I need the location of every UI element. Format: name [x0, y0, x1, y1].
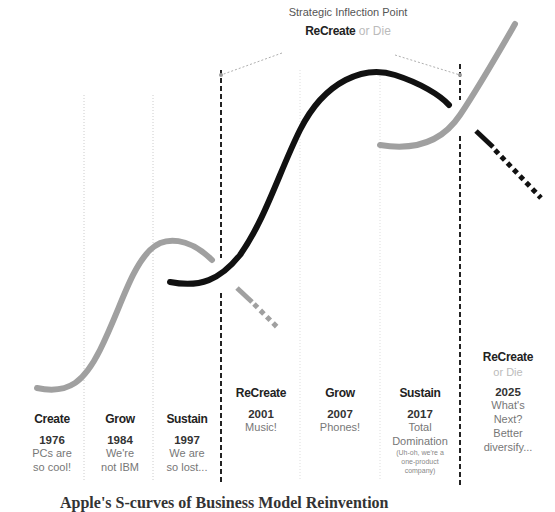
note-line: one-product [383, 457, 457, 466]
s-curve-2-ipod-iphone [170, 72, 449, 284]
column-recreate-1: ReCreate 2001 Music! [224, 386, 298, 434]
column-sustain-1: Sustain 1997 We are so lost... [155, 412, 219, 474]
desc-line: Domination [383, 434, 457, 448]
year-label: 1984 [88, 434, 152, 446]
note-line: company) [383, 466, 457, 475]
column-grow-2: Grow 2007 Phones! [302, 386, 378, 434]
phase-sub-label: or Die [468, 366, 548, 378]
phase-label: Sustain [383, 386, 457, 400]
year-label: 1976 [20, 434, 84, 446]
pointer-line-right [395, 55, 460, 75]
year-label: 2017 [383, 408, 457, 420]
desc-line: Phones! [302, 420, 378, 434]
decline-gray-solid [237, 288, 252, 302]
desc-line: so lost... [155, 460, 219, 474]
column-grow-1: Grow 1984 We're not IBM [88, 412, 152, 474]
phase-label: Create [20, 412, 84, 426]
desc-line: We are [155, 446, 219, 460]
phase-label: Sustain [155, 412, 219, 426]
desc-line: PCs are [20, 446, 84, 460]
desc-line: Total [383, 420, 457, 434]
column-recreate-2: ReCreate or Die 2025 What's Next? Better… [468, 350, 548, 454]
year-label: 2025 [468, 386, 548, 398]
pointer-dot-left [219, 73, 223, 77]
desc-line: Next? [468, 412, 548, 426]
s-curve-3-next [380, 24, 515, 147]
pointer-dot-right [458, 73, 462, 77]
desc-line: Better [468, 426, 548, 440]
desc-line: We're [88, 446, 152, 460]
phase-label: Grow [88, 412, 152, 426]
column-sustain-2: Sustain 2017 Total Domination (Uh-oh, we… [383, 386, 457, 475]
phase-label: Grow [302, 386, 378, 400]
subtitle-bold: ReCreate [305, 24, 355, 38]
header-title: Strategic Inflection Point [248, 6, 448, 18]
decline-black-dashed [495, 150, 541, 198]
header-subtitle: ReCreate or Die [248, 24, 448, 38]
year-label: 1997 [155, 434, 219, 446]
desc-line: so cool! [20, 460, 84, 474]
desc-line: What's [468, 398, 548, 412]
subtitle-light: or Die [359, 24, 391, 38]
decline-black-solid [476, 131, 493, 147]
caption: Apple's S-curves of Business Model Reinv… [60, 494, 500, 512]
year-label: 2001 [224, 408, 298, 420]
decline-gray-dashed [254, 304, 277, 327]
desc-line: Music! [224, 420, 298, 434]
desc-line: diversify... [468, 440, 548, 454]
pointer-line-left [221, 53, 282, 75]
year-label: 2007 [302, 408, 378, 420]
note-line: (Uh-oh, we're a [383, 448, 457, 457]
desc-line: not IBM [88, 460, 152, 474]
column-create: Create 1976 PCs are so cool! [20, 412, 84, 474]
phase-label: ReCreate [468, 350, 548, 364]
phase-label: ReCreate [224, 386, 298, 400]
s-curve-1-pc [37, 241, 212, 390]
